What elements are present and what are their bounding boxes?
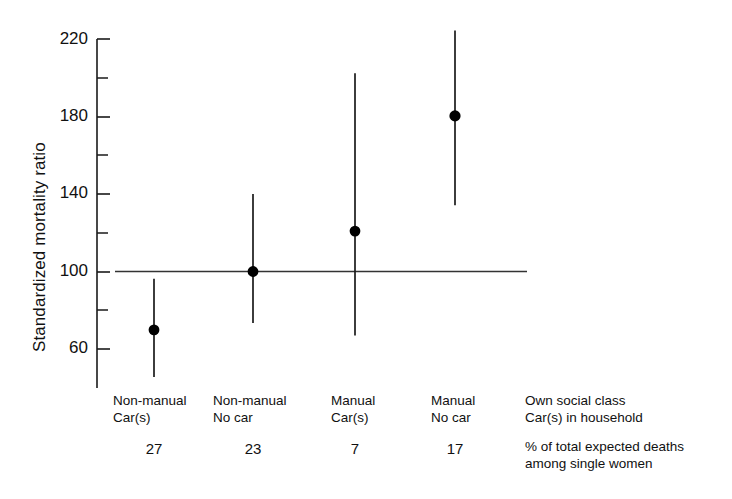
data-point-1	[149, 325, 160, 336]
category-label-4: Manual No car	[431, 392, 475, 426]
errorbar-group-2	[248, 194, 259, 323]
row-descriptor-category: Own social class Car(s) in household	[525, 392, 643, 426]
percent-value-2: 23	[223, 440, 283, 457]
category-label-1-line1: Non-manual	[113, 392, 187, 409]
category-label-3-line2: Car(s)	[331, 409, 375, 426]
category-label-2-line1: Non-manual	[213, 392, 287, 409]
row-descriptor-percent: % of total expected deaths among single …	[525, 438, 684, 472]
row-descriptor-percent-line2: among single women	[525, 455, 684, 472]
category-label-2: Non-manual No car	[213, 392, 287, 426]
errorbar-group-4	[449, 31, 460, 206]
category-label-1-line2: Car(s)	[113, 409, 187, 426]
category-label-4-line2: No car	[431, 409, 475, 426]
percent-value-1: 27	[124, 440, 184, 457]
y-major-ticks	[97, 39, 110, 349]
chart-container: Standardized mortality ratio 220 180 140…	[0, 0, 732, 499]
category-label-2-line2: No car	[213, 409, 287, 426]
category-label-4-line1: Manual	[431, 392, 475, 409]
category-label-1: Non-manual Car(s)	[113, 392, 187, 426]
percent-value-3: 7	[325, 440, 385, 457]
row-descriptor-category-line2: Car(s) in household	[525, 409, 643, 426]
row-descriptor-category-line1: Own social class	[525, 392, 643, 409]
errorbar-group-1	[149, 279, 160, 377]
errorbar-group-3	[350, 73, 361, 335]
percent-value-4: 17	[425, 440, 485, 457]
data-point-2	[248, 266, 259, 277]
data-point-4	[449, 110, 460, 121]
data-point-3	[350, 226, 361, 237]
category-label-3: Manual Car(s)	[331, 392, 375, 426]
row-descriptor-percent-line1: % of total expected deaths	[525, 438, 684, 455]
category-label-3-line1: Manual	[331, 392, 375, 409]
